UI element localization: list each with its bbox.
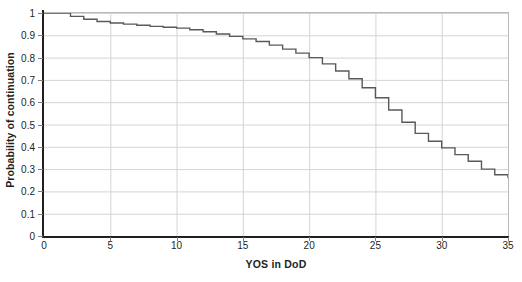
y-axis-tick-label: 1	[2, 8, 40, 19]
y-axis-tick-mark	[38, 13, 43, 14]
x-axis-tick-label: 25	[355, 240, 395, 251]
x-axis-tick-mark	[442, 237, 443, 241]
plot-frame-right-border	[508, 12, 509, 237]
y-axis-tick-label: 0.5	[2, 119, 40, 130]
step-curve	[44, 13, 508, 236]
x-axis-tick-label: 35	[488, 240, 522, 251]
x-axis-tick-label: 0	[24, 240, 64, 251]
x-axis-tick-mark	[110, 237, 111, 241]
x-axis-tick-label: 5	[90, 240, 130, 251]
x-axis-title-text: YOS in DoD	[246, 258, 307, 270]
plot-area	[44, 13, 508, 236]
y-axis-tick-mark	[38, 169, 43, 170]
x-axis-tick-mark	[243, 237, 244, 241]
y-axis-tick-mark	[38, 214, 43, 215]
x-axis-tick-label: 10	[157, 240, 197, 251]
y-axis-tick-label: 0.4	[2, 141, 40, 152]
y-axis-tick-label: 0.6	[2, 97, 40, 108]
y-axis-tick-mark	[38, 191, 43, 192]
x-axis-tick-label: 20	[289, 240, 329, 251]
y-axis-tick-label: 0.2	[2, 186, 40, 197]
y-axis-tick-mark	[38, 125, 43, 126]
x-axis-tick-mark	[309, 237, 310, 241]
chart-figure: Probability of continuation 00.10.20.30.…	[0, 0, 522, 282]
y-axis-tick-label: 0.3	[2, 164, 40, 175]
y-axis-tick-mark	[38, 236, 43, 237]
x-axis-tick-mark	[177, 237, 178, 241]
y-axis-tick-mark	[38, 102, 43, 103]
series-path-probability-of-continuation	[44, 13, 508, 178]
y-axis-tick-label: 0.7	[2, 74, 40, 85]
x-axis-tick-label: 15	[223, 240, 263, 251]
y-axis-tick-mark	[38, 147, 43, 148]
x-axis-tick-mark	[508, 237, 509, 241]
y-axis-tick-mark	[38, 35, 43, 36]
y-axis-line	[42, 10, 44, 238]
x-axis-tick-label: 30	[422, 240, 462, 251]
x-axis-line	[42, 236, 509, 238]
y-axis-tick-label: 0.8	[2, 52, 40, 63]
y-axis-tick-mark	[38, 58, 43, 59]
y-axis-tick-mark	[38, 80, 43, 81]
y-axis-tick-label: 0.1	[2, 208, 40, 219]
x-axis-title: YOS in DoD	[44, 258, 508, 270]
plot-frame-top-border	[44, 12, 509, 13]
x-axis-tick-mark	[375, 237, 376, 241]
y-axis-tick-label: 0.9	[2, 30, 40, 41]
